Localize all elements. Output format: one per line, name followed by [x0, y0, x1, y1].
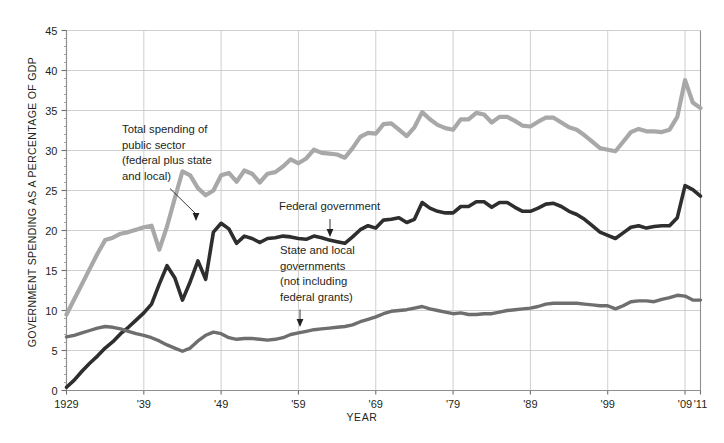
total-spending-annotation-line-2: (federal plus state — [122, 154, 212, 166]
x-tick-label-69: '69 — [369, 398, 383, 410]
y-tick-label-5: 5 — [51, 345, 57, 357]
chart-annotations: Total spending ofpublic sector(federal p… — [122, 123, 381, 327]
y-tick-label-30: 30 — [45, 145, 57, 157]
series-state-local — [67, 295, 701, 351]
y-tick-label-45: 45 — [45, 25, 57, 37]
federal-government-annotation-line-0: Federal government — [279, 200, 381, 212]
y-tick-label-15: 15 — [45, 265, 57, 277]
federal-government-annotation-arrowhead-icon — [327, 229, 334, 237]
x-tick-label-99: '99 — [601, 398, 615, 410]
state-local-annotation-line-1: governments — [280, 260, 346, 272]
y-tick-label-40: 40 — [45, 65, 57, 77]
x-tick-label-49: '49 — [214, 398, 228, 410]
x-tick-label-39: '39 — [137, 398, 151, 410]
x-tick-label-09: '09 — [678, 398, 692, 410]
y-tick-label-25: 25 — [45, 185, 57, 197]
x-tick-label-89: '89 — [523, 398, 537, 410]
x-tick-label-59: '59 — [291, 398, 305, 410]
state-local-annotation-text: State and localgovernments(not including… — [280, 244, 355, 303]
y-tick-labels: 051015202530354045 — [45, 25, 57, 397]
x-tick-label-79: '79 — [446, 398, 460, 410]
total-spending-annotation-arrowhead-icon — [193, 213, 200, 221]
total-spending-annotation-text: Total spending ofpublic sector(federal p… — [122, 123, 212, 182]
y-tick-label-10: 10 — [45, 305, 57, 317]
y-tick-label-0: 0 — [51, 385, 57, 397]
series-federal-government — [67, 186, 701, 388]
x-tick-labels: 1929'39'49'59'69'79'89'99'09'11 — [54, 398, 707, 410]
y-tick-label-35: 35 — [45, 105, 57, 117]
y-tick-label-20: 20 — [45, 225, 57, 237]
state-local-annotation-line-0: State and local — [280, 244, 355, 256]
x-tick-label-11: '11 — [694, 398, 708, 410]
total-spending-annotation-line-0: Total spending of — [122, 123, 208, 135]
total-spending-annotation-line-1: public sector — [122, 139, 186, 151]
state-local-annotation-arrowhead-icon — [297, 319, 304, 327]
x-tick-label-1929: 1929 — [54, 398, 78, 410]
state-local-annotation-line-3: federal grants) — [280, 291, 353, 303]
gridlines — [67, 31, 701, 391]
total-spending-annotation-line-3: and local) — [122, 170, 171, 182]
line-chart-plot: 051015202530354045 1929'39'49'59'69'79'8… — [0, 0, 724, 443]
state-local-annotation-line-2: (not including — [280, 275, 347, 287]
chart-figure: GOVERNMENT SPENDING AS A PERCENTAGE OF G… — [0, 0, 724, 443]
federal-government-annotation-text: Federal government — [279, 200, 381, 212]
